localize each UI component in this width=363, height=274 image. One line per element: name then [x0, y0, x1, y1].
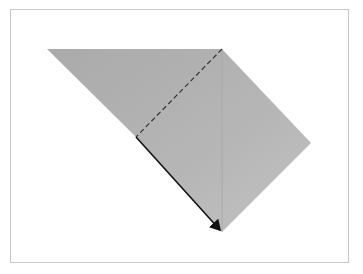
origami-diagram	[0, 0, 363, 274]
paper-shape	[47, 49, 311, 232]
